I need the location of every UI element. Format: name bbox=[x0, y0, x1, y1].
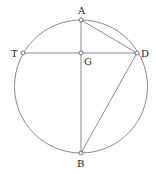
points bbox=[21, 18, 139, 155]
label-T: T bbox=[11, 48, 18, 59]
segment-AD bbox=[81, 20, 137, 53]
geometry-diagram: ATGDB bbox=[0, 0, 156, 174]
segments bbox=[23, 20, 137, 153]
label-B: B bbox=[77, 158, 84, 169]
point-T bbox=[21, 51, 25, 55]
point-G bbox=[79, 51, 83, 55]
label-A: A bbox=[77, 5, 86, 16]
point-labels: ATGDB bbox=[11, 5, 149, 169]
point-A bbox=[79, 18, 83, 22]
label-D: D bbox=[141, 48, 149, 59]
label-G: G bbox=[84, 56, 92, 67]
point-B bbox=[79, 151, 83, 155]
segment-DB bbox=[81, 53, 137, 153]
point-D bbox=[135, 51, 139, 55]
